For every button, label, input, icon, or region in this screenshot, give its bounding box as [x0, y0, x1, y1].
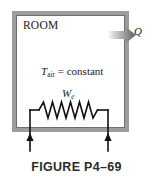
figure-p4-69: ROOM Tair = constant We Q [0, 0, 153, 185]
current-arrow-left [26, 133, 33, 141]
current-arrow-right [104, 133, 111, 141]
diagram-overlay [0, 0, 153, 185]
electric-resistance-heater [30, 102, 108, 151]
heat-out-arrow [108, 27, 136, 43]
figure-caption: FIGURE P4–69 [0, 160, 153, 174]
